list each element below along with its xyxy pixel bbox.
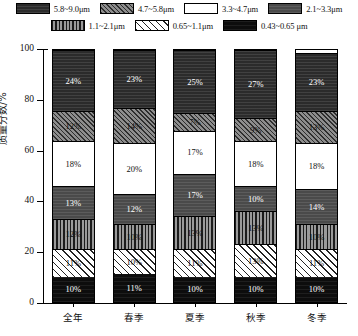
y-axis-tick: [37, 303, 43, 304]
bar-segment-label: 12%: [126, 205, 142, 214]
bar-segment-label: 18%: [309, 162, 325, 171]
bar-segment[interactable]: 10%: [235, 186, 276, 211]
bar-segment-label: 12%: [66, 122, 82, 131]
bar-segment[interactable]: 10%: [296, 224, 337, 249]
plot-area: 10%11%12%13%18%12%24%11%10%10%12%20%14%2…: [43, 49, 347, 303]
legend-item[interactable]: 0.65~1.1μm: [135, 20, 213, 31]
bar-slot: 10%13%13%10%18%9%27%: [225, 49, 286, 303]
x-axis-category-label: 秋季: [225, 310, 286, 330]
legend-item[interactable]: 4.7~5.8μm: [100, 3, 174, 14]
bar-segment-label: 10%: [126, 258, 142, 267]
bar-segment[interactable]: 13%: [53, 186, 94, 219]
bar-segment-label: 10%: [248, 195, 264, 204]
legend-label: 5.8~9.0μm: [54, 4, 90, 14]
legend-item[interactable]: 2.1~3.3μm: [268, 3, 342, 14]
stacked-bar[interactable]: 10%11%12%13%18%12%24%: [52, 49, 95, 303]
bar-segment[interactable]: 13%: [235, 211, 276, 244]
bar-segment[interactable]: 13%: [174, 216, 215, 249]
bar-segment[interactable]: 24%: [53, 50, 94, 110]
bar-segment[interactable]: 14%: [296, 189, 337, 224]
bar-segment-label: 24%: [66, 77, 82, 86]
bar-slot: 10%11%13%17%17%7%25%: [165, 49, 226, 303]
bar-segment[interactable]: 17%: [174, 174, 215, 217]
bar-segment[interactable]: 12%: [53, 219, 94, 249]
legend-label: 4.7~5.8μm: [138, 4, 174, 14]
bar-segment-label: 17%: [187, 148, 203, 157]
bar-segment[interactable]: 20%: [114, 143, 155, 193]
bar-segment-label: 20%: [126, 165, 142, 174]
bar-segment[interactable]: 9%: [235, 118, 276, 141]
y-axis-tick-labels: 020406080100: [0, 0, 34, 336]
bar-segment-label: 18%: [248, 160, 264, 169]
bar-segment[interactable]: 10%: [235, 277, 276, 302]
stacked-bar[interactable]: 10%11%13%17%17%7%25%: [173, 49, 216, 303]
bar-segment[interactable]: 18%: [296, 143, 337, 188]
legend-swatch-icon: [100, 3, 134, 14]
bar-slot: 11%10%10%12%20%14%23%: [104, 49, 165, 303]
legend-swatch-icon: [51, 20, 85, 31]
legend-swatch-icon: [184, 3, 218, 14]
bar-segment-label: 27%: [248, 80, 264, 89]
y-axis-tick-label: 100: [4, 43, 34, 53]
bar-segment[interactable]: 25%: [174, 50, 215, 113]
bar-segment[interactable]: 17%: [174, 131, 215, 174]
bar-segment[interactable]: 18%: [53, 141, 94, 186]
bar-segment[interactable]: 10%: [114, 249, 155, 274]
legend-label: 1.1~2.1μm: [89, 21, 125, 31]
legend-label: 2.1~3.3μm: [306, 4, 342, 14]
bar-segment[interactable]: 11%: [296, 249, 337, 277]
bar-segment[interactable]: 12%: [114, 194, 155, 224]
bar-segment[interactable]: 7%: [174, 113, 215, 131]
bar-segment-label: 13%: [187, 229, 203, 238]
stacked-bar[interactable]: 10%13%13%10%18%9%27%: [234, 49, 277, 303]
bar-segment[interactable]: 11%: [53, 249, 94, 277]
bar-segment-label: 14%: [126, 122, 142, 131]
x-axis-tick: [134, 303, 135, 307]
bar-segment-label: 10%: [309, 233, 325, 242]
bar-segment-label: 17%: [187, 191, 203, 200]
bar-segment[interactable]: 12%: [53, 111, 94, 141]
y-axis-tick: [37, 201, 43, 202]
bar-segment-label: 25%: [187, 78, 203, 87]
bar-segment[interactable]: 13%: [296, 111, 337, 144]
legend-item[interactable]: 0.43~0.65 μm: [223, 20, 307, 31]
stacked-bar-chart: 5.8~9.0μm4.7~5.8μm3.3~4.7μm2.1~3.3μm 1.1…: [0, 0, 358, 336]
bar-segment-label: 10%: [126, 233, 142, 242]
y-axis-title: 质量分数/%: [0, 92, 9, 145]
stacked-bar[interactable]: 11%10%10%12%20%14%23%: [113, 49, 156, 303]
x-axis-category-label: 夏季: [165, 310, 226, 330]
stacked-bar[interactable]: 10%11%10%14%18%13%23%: [295, 49, 338, 303]
y-axis-tick-label: 60: [4, 145, 34, 155]
bar-segment[interactable]: 23%: [114, 50, 155, 108]
bar-segment[interactable]: 10%: [174, 277, 215, 302]
y-axis-tick: [37, 252, 43, 253]
bar-segment[interactable]: 13%: [235, 244, 276, 277]
bar-segment[interactable]: 11%: [174, 249, 215, 277]
bar-segment[interactable]: 14%: [114, 108, 155, 143]
bar-segment-label: 13%: [248, 257, 264, 266]
legend-row-2: 1.1~2.1μm0.65~1.1μm0.43~0.65 μm: [0, 17, 358, 34]
x-axis-tick: [195, 303, 196, 307]
legend-item[interactable]: 1.1~2.1μm: [51, 20, 125, 31]
bar-segment[interactable]: 11%: [114, 274, 155, 302]
y-axis-tick-label: 0: [4, 297, 34, 307]
bar-segment[interactable]: 18%: [235, 141, 276, 186]
bar-segment[interactable]: 10%: [114, 224, 155, 249]
bar-segment[interactable]: 10%: [53, 277, 94, 302]
legend-swatch-icon: [268, 3, 302, 14]
x-axis-category-label: 冬季: [286, 310, 347, 330]
bar-segment-label: 14%: [309, 203, 325, 212]
bar-segment[interactable]: 23%: [296, 53, 337, 111]
y-axis-tick-label: 20: [4, 246, 34, 256]
bar-segment-label: 10%: [309, 285, 325, 294]
x-axis-category-label: 春季: [104, 310, 165, 330]
bar-segment[interactable]: 10%: [296, 277, 337, 302]
bar-segment-label: 10%: [66, 285, 82, 294]
x-axis-category-labels: 全年春季夏季秋季冬季: [43, 310, 347, 330]
bar-segment-label: 9%: [250, 126, 261, 135]
y-axis-tick: [37, 49, 43, 50]
bar-segment-label: 23%: [126, 75, 142, 84]
legend-item[interactable]: 3.3~4.7μm: [184, 3, 258, 14]
bar-segment[interactable]: 27%: [235, 50, 276, 118]
legend-swatch-icon: [135, 20, 169, 31]
